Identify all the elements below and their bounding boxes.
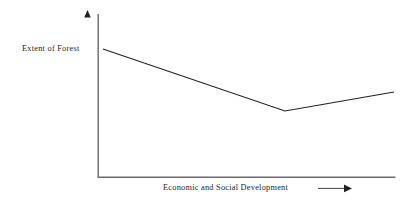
figure-canvas: Extent of Forest Economic and Social Dev… <box>0 0 409 212</box>
chart-plot <box>0 0 409 212</box>
y-axis-label: Extent of Forest <box>22 45 79 53</box>
forest-extent-curve <box>103 49 394 111</box>
x-axis-label: Economic and Social Development <box>163 184 288 192</box>
arrow-up-icon <box>84 10 91 18</box>
arrow-right-icon <box>318 185 352 193</box>
